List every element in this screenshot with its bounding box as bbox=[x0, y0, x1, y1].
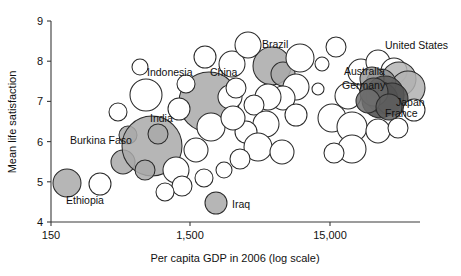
bubble-unlabeled-15 bbox=[216, 162, 232, 178]
x-tick-label: 150 bbox=[42, 229, 60, 241]
bubble-unlabeled-45 bbox=[315, 57, 329, 71]
bubble-unlabeled-11 bbox=[226, 78, 246, 98]
bubble-unlabeled-51 bbox=[156, 183, 174, 201]
bubble-unlabeled-29 bbox=[312, 83, 324, 95]
label-brazil: Brazil bbox=[262, 38, 288, 50]
bubble-unlabeled-4 bbox=[135, 160, 155, 180]
label-china: China bbox=[210, 66, 238, 78]
bubble-chart: 456789 1501,50015,000 Burkina FasoEthiop… bbox=[0, 0, 461, 276]
bubble-unlabeled-14 bbox=[195, 169, 213, 187]
y-tick-label: 4 bbox=[37, 216, 43, 228]
x-tick-label: 15,000 bbox=[313, 229, 347, 241]
bubble-unlabeled-52 bbox=[109, 103, 127, 121]
label-australia: Australia bbox=[344, 65, 385, 77]
bubble-unlabeled-43 bbox=[366, 119, 390, 143]
y-axis-ticks: 456789 bbox=[37, 15, 51, 228]
label-indonesia: Indonesia bbox=[147, 66, 193, 78]
bubble-unlabeled-1 bbox=[89, 173, 111, 195]
x-tick-label: 1,500 bbox=[176, 229, 204, 241]
label-iraq: Iraq bbox=[232, 198, 250, 210]
bubble-unlabeled-27 bbox=[270, 140, 294, 164]
chart-canvas: 456789 1501,50015,000 Burkina FasoEthiop… bbox=[0, 0, 461, 276]
y-tick-label: 9 bbox=[37, 15, 43, 27]
bubble-unlabeled-3 bbox=[148, 124, 168, 144]
label-ethiopia: Ethiopia bbox=[66, 194, 104, 206]
bubble-unlabeled-18 bbox=[286, 44, 314, 72]
bubble-unlabeled-42 bbox=[324, 143, 344, 163]
bubble-unlabeled-7 bbox=[172, 176, 192, 196]
y-tick-label: 7 bbox=[37, 95, 43, 107]
bubble-unlabeled-28 bbox=[285, 104, 307, 126]
bubble-ethiopia bbox=[53, 169, 81, 197]
label-france: France bbox=[385, 107, 418, 119]
y-tick-label: 8 bbox=[37, 55, 43, 67]
label-germany: Germany bbox=[342, 79, 386, 91]
bubble-series bbox=[53, 32, 425, 214]
label-burkina-faso: Burkina Faso bbox=[70, 134, 132, 146]
x-axis-ticks: 1501,50015,000 bbox=[42, 222, 347, 241]
label-united-states: United States bbox=[385, 39, 448, 51]
bubble-unlabeled-44 bbox=[388, 118, 408, 138]
bubble-iraq bbox=[205, 192, 227, 214]
bubble-unlabeled-8 bbox=[194, 46, 216, 68]
bubble-indonesia bbox=[130, 79, 162, 111]
bubble-unlabeled-50 bbox=[221, 106, 245, 130]
x-axis-title: Per capita GDP in 2006 (log scale) bbox=[150, 252, 319, 264]
bubble-unlabeled-13 bbox=[184, 138, 208, 162]
bubble-unlabeled-26 bbox=[230, 149, 250, 169]
y-axis-title: Mean life satisfaction bbox=[6, 71, 18, 174]
y-tick-label: 5 bbox=[37, 176, 43, 188]
label-india: India bbox=[150, 112, 173, 124]
y-tick-label: 6 bbox=[37, 136, 43, 148]
bubble-unlabeled-46 bbox=[326, 37, 346, 57]
bubble-unlabeled-5 bbox=[132, 59, 148, 75]
